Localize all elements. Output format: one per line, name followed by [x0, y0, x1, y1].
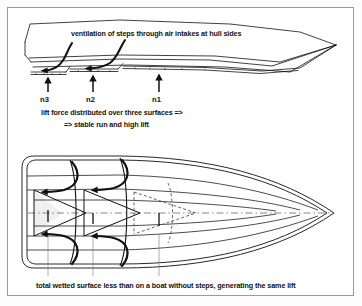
- vortex-arrowhead-lower-mid: [91, 233, 98, 240]
- caption-stable-run: => stable run and high lift: [64, 120, 149, 129]
- step-label-n2: n2: [86, 95, 95, 104]
- caption-wetted-surface: total wetted surface less than on a boat…: [36, 281, 296, 290]
- vortex-arrow-lower-aft: [46, 234, 78, 264]
- caption-lift-distribution: lift force distributed over three surfac…: [41, 108, 183, 117]
- plan-view: [0, 0, 362, 306]
- vortex-arrowhead-upper-mid: [91, 187, 98, 194]
- step-label-n3: n3: [40, 95, 49, 104]
- vortex-arrow-upper-aft: [46, 162, 78, 192]
- figure-canvas: ventilation of steps through air intakes…: [0, 0, 362, 306]
- vortex-arrow-lower-mid: [96, 236, 128, 266]
- caption-ventilation: ventilation of steps through air intakes…: [71, 29, 241, 38]
- step-label-n1: n1: [152, 95, 161, 104]
